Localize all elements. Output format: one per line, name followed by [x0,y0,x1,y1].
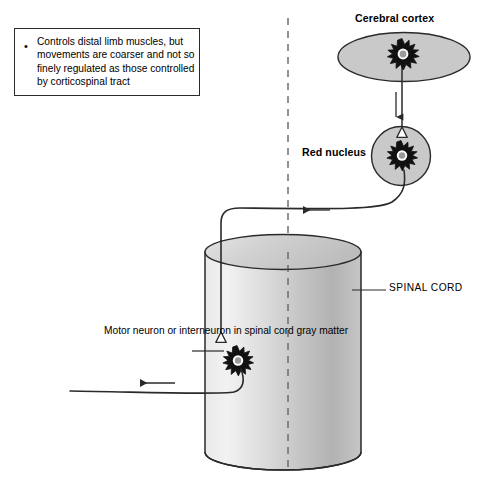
figure-caption [0,486,480,497]
label-spinal-cord: SPINAL CORD [389,281,463,294]
label-red-nucleus: Red nucleus [302,146,366,160]
label-cerebral-cortex: Cerebral cortex [355,12,434,26]
callout-text: Controls distal limb muscles, but moveme… [37,35,197,89]
figure-canvas: • Controls distal limb muscles, but move… [0,0,480,497]
label-motor-neuron: Motor neuron or interneuron in spinal co… [104,324,222,337]
callout-bullet: • [24,41,28,52]
callout-box: • Controls distal limb muscles, but move… [14,28,200,96]
spinal-cord-top-cap [205,235,361,270]
